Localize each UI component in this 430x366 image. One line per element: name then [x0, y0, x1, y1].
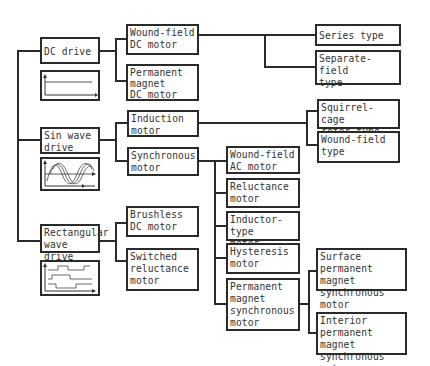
connector: [306, 110, 317, 112]
connector: [306, 144, 317, 146]
connector: [115, 160, 127, 162]
connector: [197, 34, 316, 36]
sin-wave-drive-box: Sin wave drive: [40, 127, 100, 154]
reluctance-motor-box: Reluctance motor: [226, 178, 300, 208]
wound-field-ac-motor-box: Wound-field AC motor: [226, 146, 300, 174]
connector: [17, 240, 41, 242]
connector: [264, 34, 266, 68]
connector: [197, 122, 307, 124]
connector: [308, 270, 310, 334]
connector: [214, 160, 216, 305]
hysteresis-motor-box: Hysteresis motor: [226, 243, 300, 274]
connector: [214, 192, 226, 194]
interior-pm-synchronous-motor-box: Interior permanent magnet synchronous mo…: [316, 312, 407, 355]
rectangular-wave-icon: [40, 260, 100, 296]
induction-motor-box: Induction motor: [127, 110, 199, 137]
surface-pm-synchronous-motor-box: Surface permanent magnet synchronous mot…: [316, 248, 407, 291]
rectangular-wave-drive-box: Rectangular wave drive: [40, 224, 100, 253]
dc-drive-box: DC drive: [40, 37, 100, 64]
sine-wave-icon: [40, 157, 100, 191]
connector: [17, 139, 41, 141]
connector: [306, 110, 308, 146]
permanent-magnet-dc-motor-box: Permanent magnet DC motor: [126, 64, 199, 101]
connector: [214, 303, 226, 305]
squirrel-cage-rotor-type-box: Squirrel-cage rotor type: [317, 99, 400, 129]
switched-reluctance-motor-box: Switched reluctance motor: [126, 248, 199, 291]
brushless-dc-motor-box: Brushless DC motor: [126, 206, 199, 237]
connector: [214, 257, 226, 259]
pm-synchronous-motor-box: Permanent magnet synchronous motor: [226, 278, 300, 331]
wound-field-dc-motor-box: Wound-field DC motor: [126, 24, 199, 55]
trunk-line: [17, 50, 19, 242]
connector: [115, 222, 117, 262]
series-type-box: Series type: [315, 24, 401, 46]
connector: [115, 122, 117, 162]
separate-field-type-box: Separate-field type: [315, 50, 401, 85]
connector: [115, 122, 127, 124]
connector: [264, 66, 316, 68]
synchronous-motor-box: Synchronous motor: [127, 147, 199, 176]
dc-step-icon: [40, 70, 100, 101]
connector: [115, 38, 117, 82]
connector: [17, 50, 41, 52]
wound-field-type-box: Wound-field type: [317, 131, 400, 163]
connector: [197, 160, 227, 162]
connector: [214, 225, 226, 227]
inductor-type-motor-box: Inductor-type motor: [226, 211, 300, 241]
